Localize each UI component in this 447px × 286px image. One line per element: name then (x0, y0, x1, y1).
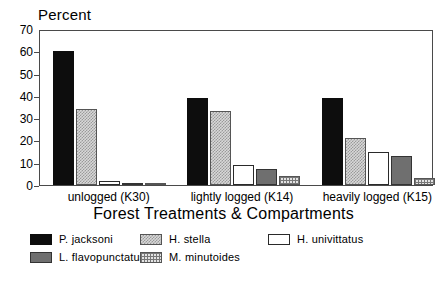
legend-label: L. flavopunctatus (59, 251, 146, 263)
bar (76, 109, 97, 185)
legend-item: M. minutoides (140, 251, 240, 263)
legend-label: M. minutoides (169, 251, 240, 263)
y-axis-title: Percent (38, 6, 91, 23)
y-tick-label: 60 (9, 45, 33, 59)
bar (187, 98, 208, 185)
legend-label: P. jacksoni (59, 233, 113, 245)
legend-item: P. jacksoni (30, 233, 113, 245)
bar (368, 152, 389, 185)
chart-legend: P. jacksoniH. stellaH. univittatusL. fla… (0, 231, 447, 277)
bar (53, 51, 74, 185)
y-tick-label: 10 (9, 157, 33, 171)
bar (122, 183, 143, 185)
bar (414, 178, 435, 185)
x-tick-label: heavily logged (K15) (323, 190, 432, 204)
legend-swatch-icon (140, 252, 162, 263)
legend-label: H. univittatus (297, 233, 363, 245)
y-tick-mark (34, 186, 39, 187)
bar-chart-figure: Percent 010203040506070 unlogged (K30)li… (0, 0, 447, 286)
bar (145, 183, 166, 185)
bar (256, 169, 277, 185)
bar (210, 111, 231, 185)
legend-swatch-icon (268, 234, 290, 245)
legend-swatch-icon (30, 252, 52, 263)
y-tick-label: 70 (9, 23, 33, 37)
y-tick-label: 40 (9, 90, 33, 104)
legend-item: H. univittatus (268, 233, 363, 245)
bar (99, 181, 120, 185)
bar (391, 156, 412, 185)
bar (279, 176, 300, 185)
legend-swatch-icon (30, 234, 52, 245)
bars-container (40, 31, 432, 185)
bar (233, 165, 254, 185)
legend-item: H. stella (140, 233, 211, 245)
bar (322, 98, 343, 185)
x-tick-label: unlogged (K30) (68, 190, 150, 204)
x-tick-label: lightly logged (K14) (191, 190, 294, 204)
legend-item: L. flavopunctatus (30, 251, 146, 263)
legend-label: H. stella (169, 233, 211, 245)
legend-swatch-icon (140, 234, 162, 245)
y-tick-label: 20 (9, 134, 33, 148)
y-tick-label: 0 (9, 179, 33, 193)
plot-area (39, 30, 433, 186)
y-tick-label: 50 (9, 68, 33, 82)
y-tick-label: 30 (9, 112, 33, 126)
x-axis-title: Forest Treatments & Compartments (0, 205, 447, 223)
bar (345, 138, 366, 185)
